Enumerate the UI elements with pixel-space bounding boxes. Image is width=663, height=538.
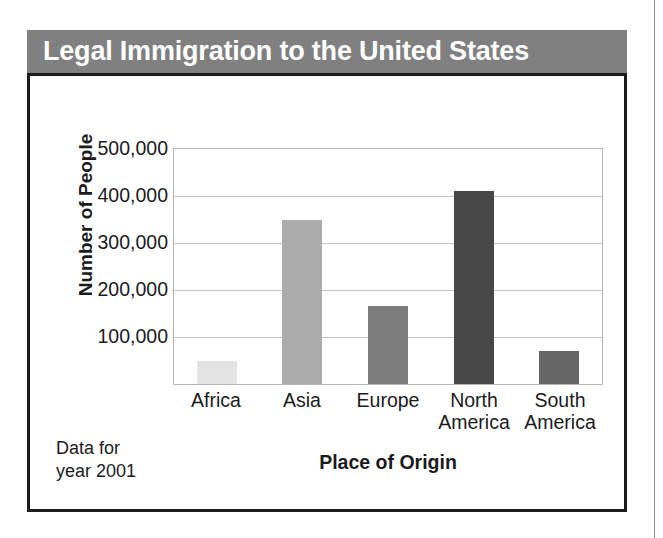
data-source-note: Data for year 2001 — [56, 437, 136, 483]
gridline — [174, 196, 602, 197]
plot-area — [173, 148, 603, 385]
y-axis-tick-label: 500,000 — [68, 137, 168, 160]
bar-chart: Number of People 100,000200,000300,00040… — [30, 76, 624, 509]
x-axis-tick-label: Africa — [173, 389, 259, 449]
figure-title: Legal Immigration to the United States — [43, 35, 529, 66]
page-edge-rule — [654, 0, 655, 538]
gridline — [174, 243, 602, 244]
x-axis-title: Place of Origin — [173, 451, 603, 474]
scanned-page: Legal Immigration to the United States N… — [0, 0, 663, 538]
bar-europe — [368, 306, 408, 384]
x-axis-tick-labels: AfricaAsiaEuropeNorthAmericaSouthAmerica — [173, 389, 603, 449]
y-axis-tick-label: 100,000 — [68, 325, 168, 348]
figure-title-band: Legal Immigration to the United States — [27, 30, 627, 73]
figure-frame: Number of People 100,000200,000300,00040… — [27, 73, 627, 512]
bar-north-america — [454, 191, 494, 384]
bar-africa — [197, 361, 237, 385]
y-axis-tick-label: 200,000 — [68, 278, 168, 301]
y-axis-tick-label: 400,000 — [68, 184, 168, 207]
bar-asia — [282, 220, 322, 385]
bar-south-america — [539, 351, 579, 384]
gridline — [174, 290, 602, 291]
x-axis-tick-label: Europe — [345, 389, 431, 449]
x-axis-tick-label: NorthAmerica — [431, 389, 517, 449]
x-axis-tick-label: Asia — [259, 389, 345, 449]
x-axis-tick-label: SouthAmerica — [517, 389, 603, 449]
y-axis-tick-label: 300,000 — [68, 231, 168, 254]
